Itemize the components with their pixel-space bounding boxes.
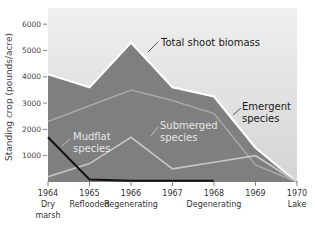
- y-tick-label: 6000: [22, 20, 41, 29]
- x-phase-label: Dry: [41, 200, 55, 209]
- y-axis: 100020003000400050006000: [22, 20, 47, 161]
- mudflat-label-line1: Mudflat: [73, 131, 111, 142]
- y-tick-label: 5000: [22, 46, 41, 55]
- x-tick-label: 1966: [121, 189, 141, 198]
- x-axis: 1964Drymarsh1965Reflooded1966Regeneratin…: [35, 181, 307, 220]
- emergent-label-line1: Emergent: [242, 101, 291, 112]
- x-tick-label: 1970: [287, 189, 307, 198]
- y-tick-label: 1000: [22, 151, 41, 160]
- x-tick-label: 1965: [79, 189, 99, 198]
- x-tick-label: 1968: [204, 189, 224, 198]
- x-phase-label: Regenerating: [104, 200, 158, 209]
- x-phase-label: Lake: [288, 200, 307, 209]
- submerged-label-line2: species: [160, 132, 197, 143]
- y-tick-label: 3000: [22, 99, 41, 108]
- total-biomass-label: Total shoot biomass: [160, 37, 260, 48]
- x-tick-label: 1969: [245, 189, 265, 198]
- emergent-label-line2: species: [242, 113, 279, 124]
- y-axis-label: Standing crop (pounds/acre): [4, 33, 14, 161]
- biomass-chart: 100020003000400050006000 1964Drymarsh196…: [0, 0, 315, 227]
- mudflat-label-line2: species: [73, 143, 110, 154]
- x-phase-label: marsh: [35, 211, 60, 220]
- x-phase-label: Degenerating: [187, 200, 242, 209]
- submerged-label-line1: Submerged: [160, 120, 218, 131]
- y-tick-label: 2000: [22, 125, 41, 134]
- x-tick-label: 1964: [38, 189, 58, 198]
- x-tick-label: 1967: [162, 189, 182, 198]
- y-tick-label: 4000: [22, 72, 41, 81]
